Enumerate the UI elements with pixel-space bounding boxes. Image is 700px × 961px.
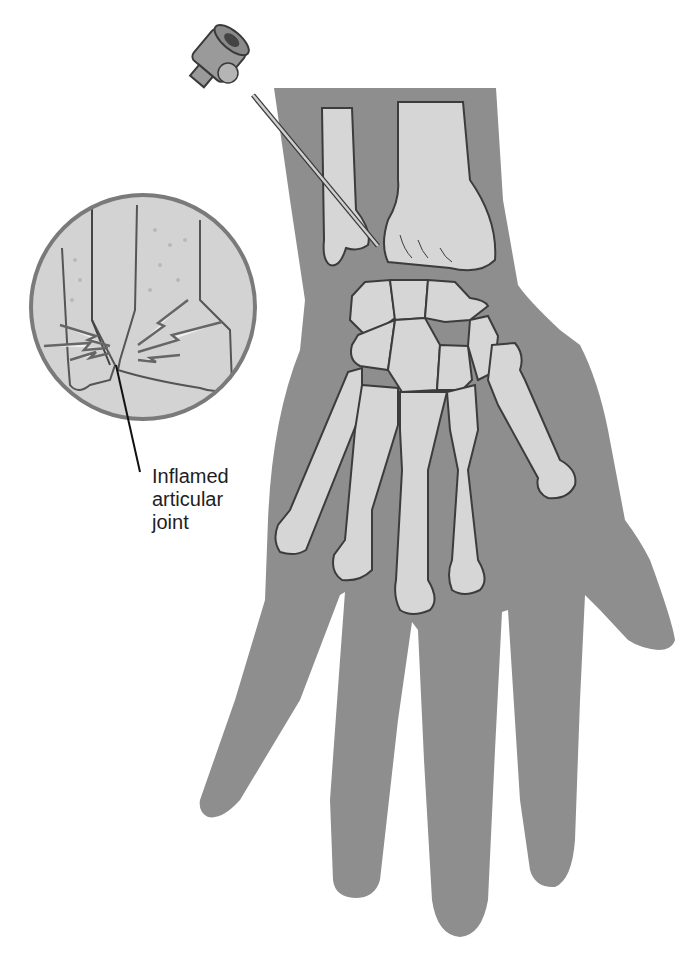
inset-magnified-joint <box>31 195 255 472</box>
label-line-1: Inflamed <box>152 465 229 488</box>
inflamed-joint-label: Inflamed articular joint <box>152 465 229 534</box>
label-line-2: articular <box>152 488 229 511</box>
wrist-injection-illustration <box>0 0 700 961</box>
label-line-3: joint <box>152 511 229 534</box>
